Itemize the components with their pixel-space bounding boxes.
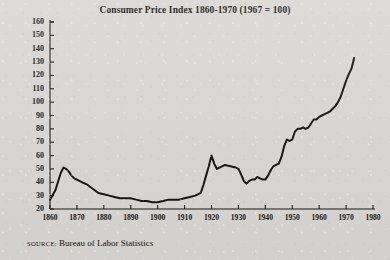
y-axis-tick-label: 70 — [18, 138, 44, 146]
source-label: SOURCE: — [27, 240, 57, 247]
y-axis-tick-label: 150 — [18, 31, 44, 39]
chart-page: Consumer Price Index 1860-1970 (1967 = 1… — [0, 0, 390, 260]
y-axis-tick-label: 130 — [18, 58, 44, 66]
y-axis-tick-label: 30 — [18, 192, 44, 200]
y-axis-tick-label: 160 — [18, 18, 44, 26]
y-axis-tick-label: 40 — [18, 178, 44, 186]
y-axis-tick-label: 60 — [18, 152, 44, 160]
y-axis-tick-label: 20 — [18, 205, 44, 213]
y-axis-tick-label: 50 — [18, 165, 44, 173]
y-axis-tick-label: 140 — [18, 45, 44, 53]
y-axis-tick-label: 80 — [18, 125, 44, 133]
y-axis-tick-label: 120 — [18, 71, 44, 79]
y-axis-tick-label: 100 — [18, 98, 44, 106]
source-text: Bureau of Labor Statistics — [59, 238, 153, 248]
y-axis-tick-label: 110 — [18, 85, 44, 93]
data-series — [50, 58, 354, 202]
y-axis-tick-label: 90 — [18, 112, 44, 120]
source-note: SOURCE: Bureau of Labor Statistics — [27, 238, 153, 249]
axes — [50, 20, 375, 209]
x-axis-tick-label: 1980 — [356, 214, 390, 222]
series-line-0 — [50, 58, 354, 202]
